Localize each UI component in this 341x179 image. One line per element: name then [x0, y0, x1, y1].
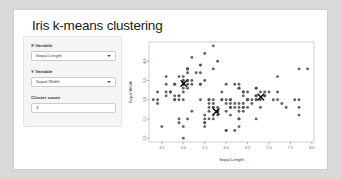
cluster-count-label: Cluster count: [31, 95, 116, 101]
data-point: [178, 98, 181, 101]
data-point: [216, 106, 219, 109]
data-point: [250, 102, 253, 105]
data-point: [280, 102, 283, 105]
data-point: [276, 98, 279, 101]
y-variable-label: Y Variable: [31, 69, 116, 75]
data-point: [199, 71, 202, 74]
x-variable-group: X Variable Sepal.Length: [31, 43, 116, 61]
data-point: [190, 110, 193, 113]
cluster-count-group: Cluster count 3: [31, 95, 116, 113]
data-point: [246, 91, 249, 94]
data-point: [182, 98, 185, 101]
y-variable-value: Sepal.Width: [32, 78, 60, 86]
data-point: [233, 106, 236, 109]
data-point: [233, 83, 236, 86]
data-point: [203, 121, 206, 124]
data-point: [165, 94, 168, 97]
data-point: [199, 64, 202, 67]
data-point: [238, 83, 241, 86]
data-point: [225, 129, 228, 132]
y-tick-label: 2.0: [143, 136, 147, 141]
x-variable-value: Sepal.Length: [32, 52, 62, 60]
data-point: [242, 106, 245, 109]
data-point: [182, 75, 185, 78]
data-point: [199, 83, 202, 86]
data-point: [255, 117, 258, 120]
y-tick-label: 4.0: [143, 59, 147, 64]
data-point: [238, 106, 241, 109]
plot-panel: [149, 42, 314, 142]
data-point: [203, 52, 206, 55]
cluster-count-value: 3: [32, 104, 38, 112]
data-point: [182, 125, 185, 128]
data-point: [208, 110, 211, 113]
y-variable-select[interactable]: Sepal.Width: [31, 77, 116, 87]
data-point: [229, 114, 232, 117]
x-tick-label: 6.5: [245, 146, 250, 150]
y-tick-label: 2.5: [143, 116, 147, 121]
page-title: Iris k-means clustering: [32, 18, 162, 33]
data-point: [225, 110, 228, 113]
data-point: [276, 75, 279, 78]
y-tick-label: 3.0: [143, 97, 147, 102]
x-tick-label: 8.0: [309, 146, 314, 150]
data-point: [220, 98, 223, 101]
data-point: [186, 117, 189, 120]
data-point: [225, 98, 228, 101]
app-window: Iris k-means clustering X Variable Sepal…: [13, 9, 328, 170]
y-axis-title: Sepal.Width: [128, 80, 133, 103]
data-point: [186, 83, 189, 86]
data-point: [242, 91, 245, 94]
data-point: [229, 98, 232, 101]
data-point: [178, 94, 181, 97]
data-point: [255, 87, 258, 90]
data-point: [156, 98, 159, 101]
data-point: [173, 94, 176, 97]
data-point: [203, 125, 206, 128]
data-point: [190, 83, 193, 86]
x-tick-label: 5.0: [181, 146, 186, 150]
data-point: [238, 102, 241, 105]
data-point: [238, 117, 241, 120]
data-point: [212, 102, 215, 105]
data-point: [233, 129, 236, 132]
data-point: [298, 114, 301, 117]
data-point: [182, 91, 185, 94]
data-point: [263, 91, 266, 94]
data-point: [250, 98, 253, 101]
data-point: [238, 110, 241, 113]
y-tick-label: 3.5: [143, 78, 147, 83]
data-point: [208, 106, 211, 109]
data-point: [173, 83, 176, 86]
x-variable-label: X Variable: [31, 43, 116, 49]
data-point: [212, 117, 215, 120]
data-point: [246, 98, 249, 101]
data-point: [238, 87, 241, 90]
data-point: [255, 94, 258, 97]
data-point: [178, 117, 181, 120]
data-point: [225, 102, 228, 105]
data-point: [203, 117, 206, 120]
data-point: [165, 91, 168, 94]
cluster-count-input[interactable]: 3: [31, 103, 116, 113]
data-point: [182, 137, 185, 140]
data-point: [259, 106, 262, 109]
data-point: [272, 98, 275, 101]
data-point: [216, 60, 219, 63]
data-point: [242, 102, 245, 105]
data-point: [190, 56, 193, 59]
x-tick-label: 7.0: [266, 146, 271, 150]
data-point: [238, 125, 241, 128]
data-point: [259, 91, 262, 94]
data-point: [203, 114, 206, 117]
x-variable-select[interactable]: Sepal.Length: [31, 51, 116, 61]
data-point: [208, 102, 211, 105]
data-point: [298, 98, 301, 101]
x-axis-title: Sepal.Length: [219, 157, 244, 162]
data-point: [255, 98, 258, 101]
x-tick-label: 4.5: [159, 146, 164, 150]
data-point: [178, 121, 181, 124]
data-point: [242, 94, 245, 97]
data-point: [208, 117, 211, 120]
data-point: [298, 106, 301, 109]
